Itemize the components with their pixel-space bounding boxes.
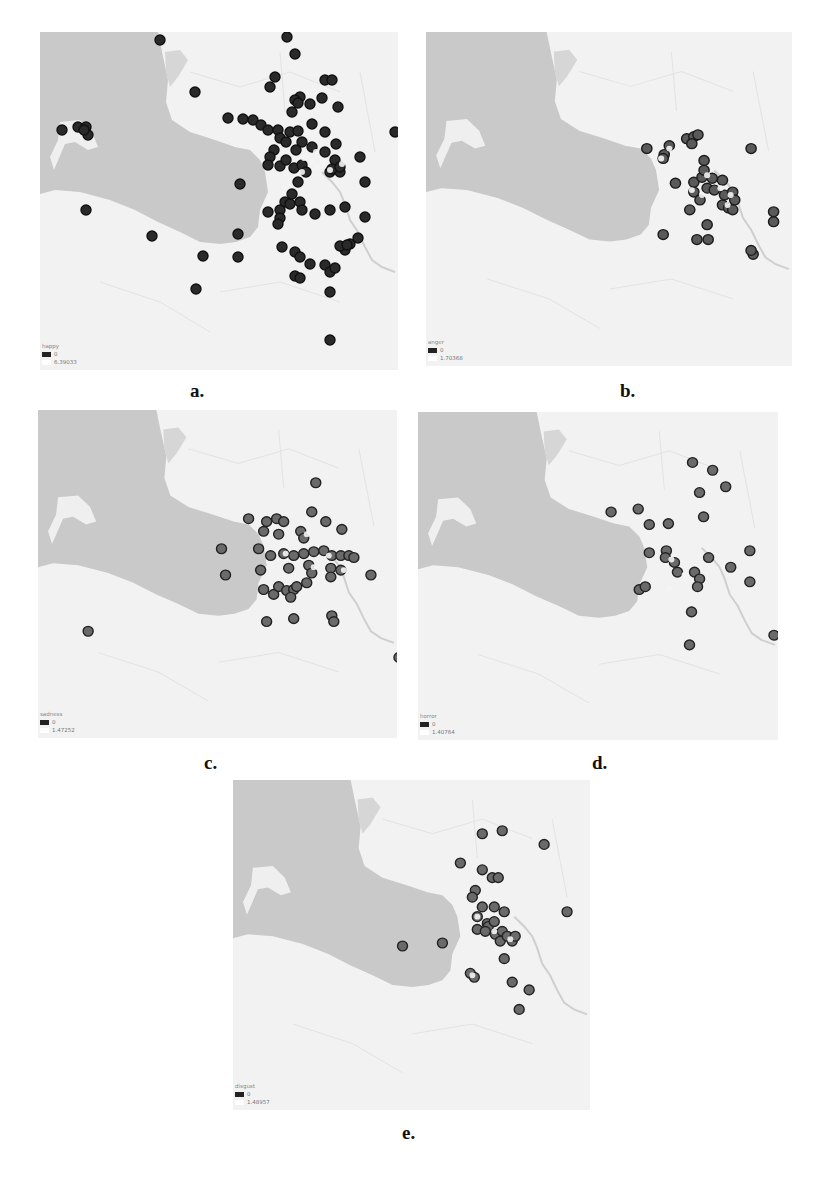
legend-swatch-max bbox=[40, 728, 49, 733]
data-point bbox=[524, 985, 534, 995]
data-point bbox=[398, 941, 408, 951]
legend-swatch-min bbox=[42, 352, 51, 357]
data-point bbox=[746, 144, 756, 154]
legend-min-value: 0 bbox=[52, 718, 56, 726]
data-point bbox=[279, 517, 289, 527]
data-point bbox=[360, 177, 370, 187]
data-point bbox=[366, 570, 376, 580]
data-point bbox=[507, 977, 517, 987]
hotspot-point bbox=[313, 149, 319, 155]
hotspot-point bbox=[304, 531, 310, 537]
data-point bbox=[263, 125, 273, 135]
data-point bbox=[307, 507, 317, 517]
hotspot-point bbox=[689, 187, 695, 193]
map-legend: anger 0 1.70368 bbox=[428, 338, 463, 362]
data-point bbox=[768, 207, 778, 217]
hotspot-point bbox=[728, 192, 734, 198]
data-point bbox=[292, 582, 302, 592]
legend-max-value: 1.48957 bbox=[247, 1098, 270, 1106]
data-point bbox=[79, 125, 89, 135]
data-point bbox=[198, 251, 208, 261]
data-point bbox=[325, 287, 335, 297]
data-point bbox=[259, 585, 269, 595]
data-point bbox=[299, 549, 309, 559]
legend-swatch-min bbox=[420, 722, 429, 727]
data-point bbox=[305, 259, 315, 269]
data-point bbox=[708, 465, 718, 475]
data-point bbox=[663, 519, 673, 529]
data-point bbox=[703, 235, 713, 245]
hotspot-point bbox=[326, 553, 332, 559]
data-point bbox=[726, 562, 736, 572]
hotspot-point bbox=[474, 914, 480, 920]
data-point bbox=[295, 273, 305, 283]
data-point bbox=[745, 546, 755, 556]
data-point bbox=[295, 252, 305, 262]
data-point bbox=[693, 582, 703, 592]
data-point bbox=[325, 205, 335, 215]
legend-min-value: 0 bbox=[54, 350, 58, 358]
data-point bbox=[745, 577, 755, 587]
data-point bbox=[216, 544, 226, 554]
map-legend: happy 0 6.39033 bbox=[42, 342, 77, 366]
hotspot-point bbox=[311, 564, 317, 570]
hotspot-point bbox=[299, 169, 305, 175]
data-point bbox=[342, 240, 352, 250]
hotspot-point bbox=[704, 172, 710, 178]
map-panel-b: anger 0 1.70368 bbox=[426, 32, 792, 366]
legend-swatch-max bbox=[428, 356, 437, 361]
legend-max-value: 1.70368 bbox=[440, 354, 463, 362]
data-point bbox=[147, 231, 157, 241]
data-point bbox=[699, 156, 709, 166]
panel-caption-b: b. bbox=[620, 380, 635, 402]
data-point bbox=[331, 139, 341, 149]
legend-title: disgust bbox=[235, 1082, 270, 1090]
legend-swatch-min bbox=[40, 720, 49, 725]
data-point bbox=[699, 512, 709, 522]
data-point bbox=[238, 114, 248, 124]
data-point bbox=[262, 617, 272, 627]
data-point bbox=[672, 567, 682, 577]
data-point bbox=[455, 858, 465, 868]
data-point bbox=[768, 217, 778, 227]
data-point bbox=[644, 548, 654, 558]
data-point bbox=[57, 125, 67, 135]
data-point bbox=[539, 840, 549, 850]
data-point bbox=[81, 205, 91, 215]
data-point bbox=[83, 626, 93, 636]
data-point bbox=[285, 199, 295, 209]
legend-min-value: 0 bbox=[432, 720, 436, 728]
data-point bbox=[273, 219, 283, 229]
hotspot-point bbox=[699, 192, 705, 198]
data-point bbox=[493, 873, 503, 883]
data-point bbox=[489, 902, 499, 912]
data-point bbox=[321, 517, 331, 527]
data-point bbox=[340, 202, 350, 212]
data-point bbox=[287, 189, 297, 199]
data-point bbox=[256, 565, 266, 575]
map-canvas bbox=[40, 32, 398, 370]
data-point bbox=[233, 229, 243, 239]
data-point bbox=[289, 614, 299, 624]
data-point bbox=[282, 32, 292, 42]
legend-title: happy bbox=[42, 342, 77, 350]
data-point bbox=[497, 826, 507, 836]
data-point bbox=[310, 209, 320, 219]
data-point bbox=[287, 107, 297, 117]
data-point bbox=[684, 640, 694, 650]
data-point bbox=[562, 907, 572, 917]
data-point bbox=[437, 938, 447, 948]
data-point bbox=[687, 139, 697, 149]
data-point bbox=[330, 263, 340, 273]
data-point bbox=[307, 119, 317, 129]
data-point bbox=[265, 82, 275, 92]
data-point bbox=[221, 570, 231, 580]
data-point bbox=[658, 230, 668, 240]
hotspot-point bbox=[507, 936, 513, 942]
data-point bbox=[477, 829, 487, 839]
hotspot-point bbox=[320, 159, 326, 165]
map-panel-a: happy 0 6.39033 bbox=[40, 32, 398, 370]
data-point bbox=[281, 137, 291, 147]
data-point bbox=[499, 907, 509, 917]
legend-max-value: 1.40764 bbox=[432, 728, 455, 736]
